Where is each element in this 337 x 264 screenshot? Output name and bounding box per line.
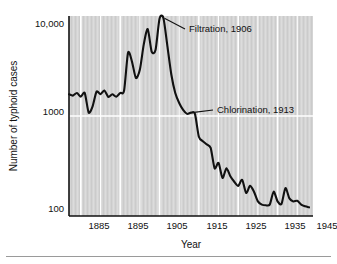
x-axis-title: Year: [181, 239, 202, 250]
footer-divider: [6, 256, 331, 257]
filtration-annotation-label: Filtration, 1906: [189, 23, 252, 34]
x-tick-label-1915: 1915: [206, 220, 227, 231]
x-tick-label-1885: 1885: [88, 220, 109, 231]
x-tick-label-1945: 1945: [316, 220, 337, 231]
chlorination-annotation-label: Chlorination, 1913: [217, 104, 294, 115]
x-tick-label-1925: 1925: [245, 220, 266, 231]
y-axis-title: Number of typhoid cases: [8, 61, 19, 172]
y-tick-label-100: 100: [48, 203, 64, 214]
typhoid-line-chart: 10,000 1000 100 1885 1895 1905 1915 1925…: [0, 0, 337, 264]
x-tick-label-1935: 1935: [284, 220, 305, 231]
typhoid-cases-figure: 10,000 1000 100 1885 1895 1905 1915 1925…: [0, 0, 337, 264]
x-tick-label-1905: 1905: [166, 220, 187, 231]
x-tick-label-1895: 1895: [127, 220, 148, 231]
y-tick-label-10000: 10,000: [35, 18, 64, 29]
y-tick-label-1000: 1000: [43, 106, 64, 117]
